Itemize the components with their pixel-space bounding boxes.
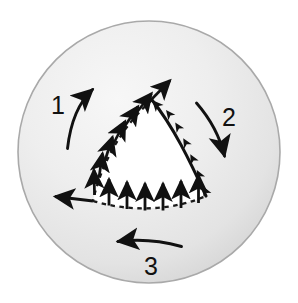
label-2: 2 <box>222 103 236 131</box>
label-1: 1 <box>51 91 65 119</box>
sphere-diagram: 1 2 3 <box>0 0 298 303</box>
label-3: 3 <box>144 252 158 280</box>
figure-canvas: 1 2 3 <box>0 0 298 303</box>
